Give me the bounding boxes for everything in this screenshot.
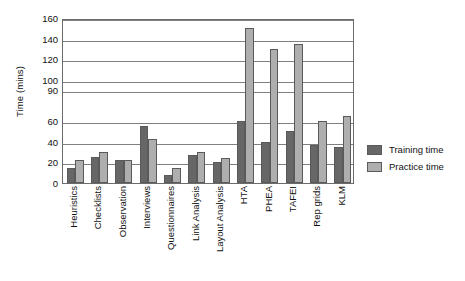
legend-swatch-training-icon [367,145,382,155]
y-axis-tick-label: 20 [28,158,58,168]
chart-legend: Training time Practice time [367,145,444,179]
y-axis-title: Time (mins) [14,47,25,137]
x-axis-tick-label: Observation [118,186,128,237]
y-axis-tick-label: 100 [28,76,58,86]
y-axis-tick-label: 60 [28,117,58,127]
plot-area [62,19,354,184]
bars-layer [63,20,353,183]
x-axis-label-slot: Heuristics [62,186,86,278]
x-axis-label-slot: Observation [111,186,135,278]
legend-label-practice: Practice time [389,162,444,172]
legend-swatch-practice-icon [367,162,382,172]
bar-group [306,20,330,183]
x-axis-label-slot: Checklists [86,186,110,278]
y-axis-tick-labels: 020406090100120140160 [28,19,58,184]
y-axis-tick-label: 40 [28,138,58,148]
bar-practice [99,152,108,183]
bar-chart: Time (mins) 020406090100120140160 Heuris… [0,0,465,281]
x-axis-label-slot: TAFEI [281,186,305,278]
x-axis-tick-label: Checklists [94,186,104,229]
bar-practice [318,121,327,183]
bar-group [112,20,136,183]
bar-group [185,20,209,183]
x-axis-label-slot: Link Analysis [184,186,208,278]
bar-training [115,160,124,183]
x-axis-tick-label: PHEA [264,186,274,212]
bar-training [237,121,246,183]
legend-label-training: Training time [389,145,444,155]
y-axis-tick-label: 0 [28,179,58,189]
bar-training [286,131,295,183]
bar-group [136,20,160,183]
x-axis-label-slot: KLM [330,186,354,278]
x-axis-tick-label: Link Analysis [191,186,201,241]
y-axis-tick-label: 90 [28,86,58,96]
bar-training [140,126,149,183]
bar-practice [75,160,84,183]
bar-practice [197,152,206,183]
bar-practice [124,160,133,183]
x-axis-label-slot: HTA [232,186,256,278]
x-axis-tick-label: Questionnaires [167,186,177,250]
x-axis-tick-label: HTA [240,186,250,204]
bar-group [233,20,257,183]
y-axis-tick-label: 120 [28,55,58,65]
x-axis-tick-label: Layout Analysis [215,186,225,252]
bar-practice [270,49,279,183]
bar-training [213,162,222,183]
bar-group [258,20,282,183]
bar-group [331,20,355,183]
y-axis-tick-label: 160 [28,14,58,24]
x-axis-tick-label: TAFEI [288,186,298,212]
bar-group [160,20,184,183]
x-axis-label-slot: PHEA [257,186,281,278]
bar-group [63,20,87,183]
bar-training [310,145,319,183]
bar-training [188,155,197,183]
legend-item-training: Training time [367,145,444,155]
bar-training [261,142,270,183]
bar-practice [148,139,157,183]
x-axis-tick-label: Rep grids [313,186,323,227]
x-axis-tick-label: KLM [337,186,347,206]
bar-group [209,20,233,183]
bar-practice [294,44,303,183]
bar-practice [172,168,181,183]
bar-practice [343,116,352,183]
legend-item-practice: Practice time [367,162,444,172]
bar-training [67,168,76,183]
x-axis-tick-label: Heuristics [69,186,79,228]
bar-practice [221,158,230,183]
bar-group [282,20,306,183]
x-axis-tick-label: Interviews [142,186,152,229]
bar-training [164,175,173,183]
bar-group [87,20,111,183]
bar-training [91,157,100,183]
x-axis-label-slot: Interviews [135,186,159,278]
y-axis-tick-label: 140 [28,35,58,45]
x-axis-category-labels: HeuristicsChecklistsObservationInterview… [62,186,354,278]
bar-training [334,147,343,183]
bar-practice [245,28,254,183]
x-axis-label-slot: Layout Analysis [208,186,232,278]
x-axis-label-slot: Questionnaires [159,186,183,278]
x-axis-label-slot: Rep grids [305,186,329,278]
